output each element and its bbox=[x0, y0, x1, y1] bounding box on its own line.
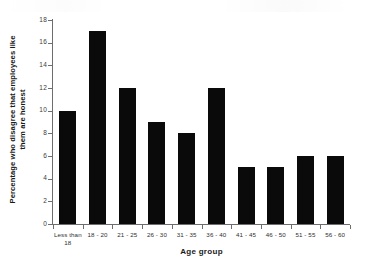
y-axis-title: Percentage who disagree that employees l… bbox=[8, 15, 27, 225]
bar bbox=[59, 111, 76, 224]
x-axis-tick bbox=[261, 225, 262, 229]
x-axis-tick bbox=[172, 225, 173, 229]
x-axis-tick bbox=[320, 225, 321, 229]
x-axis-tick bbox=[202, 225, 203, 229]
bar bbox=[178, 133, 195, 224]
x-axis-tick bbox=[142, 225, 143, 229]
x-axis-tick bbox=[112, 225, 113, 229]
x-axis-category-label-line-1: 56 - 60 bbox=[325, 231, 345, 238]
plot-area bbox=[53, 20, 350, 224]
x-axis-category-label-line-2: 18 bbox=[46, 239, 90, 247]
x-axis-tick bbox=[83, 225, 84, 229]
bar bbox=[148, 122, 165, 224]
bar-chart: 024681012141618 Less than1818 - 2021 - 2… bbox=[0, 0, 365, 270]
x-axis-tick bbox=[350, 225, 351, 229]
bar bbox=[327, 156, 344, 224]
y-axis-title-line-1: Percentage who disagree that employees l… bbox=[8, 35, 17, 203]
bar bbox=[208, 88, 225, 224]
x-axis-tick bbox=[291, 225, 292, 229]
bar bbox=[238, 167, 255, 224]
x-axis-title: Age group bbox=[53, 247, 350, 256]
x-axis-tick bbox=[231, 225, 232, 229]
x-axis-line bbox=[52, 224, 350, 225]
x-axis-category-label: 56 - 60 bbox=[313, 231, 357, 239]
bar bbox=[297, 156, 314, 224]
scan-artifact bbox=[0, 0, 365, 12]
x-axis-tick bbox=[53, 225, 54, 229]
bar bbox=[267, 167, 284, 224]
bar bbox=[119, 88, 136, 224]
bar bbox=[89, 31, 106, 224]
y-axis-title-line-2: them are honest bbox=[17, 15, 27, 225]
